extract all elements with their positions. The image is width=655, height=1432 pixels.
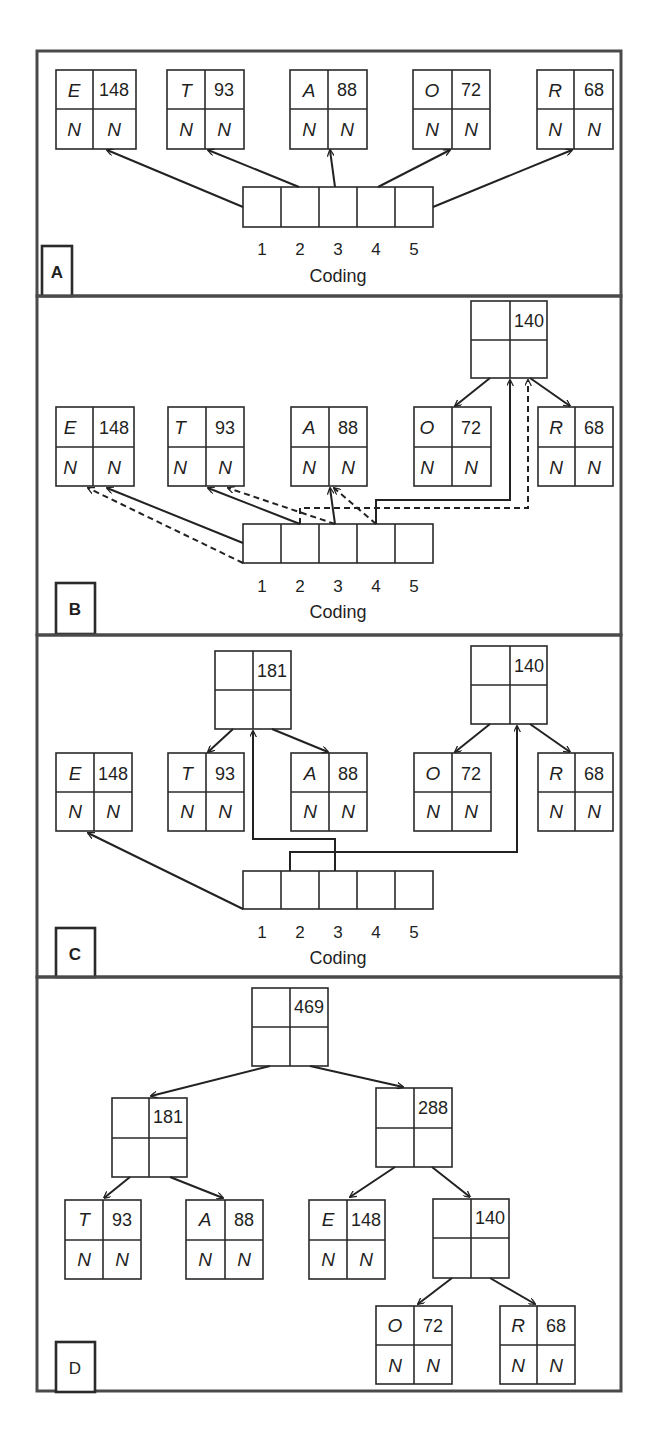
svg-text:T: T xyxy=(181,763,194,784)
svg-text:1: 1 xyxy=(257,923,266,942)
svg-text:N: N xyxy=(173,457,187,478)
leaf-node-t: T 93 N N xyxy=(167,70,244,149)
panel-d: 469 181 288 140 T 93 N N A xyxy=(37,977,621,1392)
leaf-node-r: R 68 N N xyxy=(500,1306,575,1384)
panel-label-d: D xyxy=(56,1342,95,1392)
svg-text:R: R xyxy=(511,1315,525,1336)
svg-text:3: 3 xyxy=(333,240,342,259)
right-pointer: N xyxy=(107,119,121,140)
coding-caption: Coding xyxy=(309,266,366,286)
svg-text:C: C xyxy=(69,945,81,964)
leaf-symbol: R xyxy=(548,80,562,101)
svg-text:O: O xyxy=(388,1315,403,1336)
coding-array xyxy=(243,524,433,563)
coding-index-labels: 1 2 3 4 5 xyxy=(257,923,418,942)
leaf-node-a: A 88 N N xyxy=(186,1200,263,1279)
svg-text:E: E xyxy=(322,1209,335,1230)
panel-c: 181 140 E 148 N N T 93 N N A 88 xyxy=(37,635,621,977)
leaf-weight: 148 xyxy=(99,80,129,100)
svg-text:148: 148 xyxy=(98,764,128,784)
leaf-symbol: A xyxy=(302,80,316,101)
svg-text:93: 93 xyxy=(112,1210,132,1230)
right-pointer: N xyxy=(217,119,231,140)
svg-text:N: N xyxy=(115,1249,129,1270)
left-pointer: N xyxy=(548,119,562,140)
svg-text:N: N xyxy=(464,457,478,478)
svg-text:2: 2 xyxy=(295,577,304,596)
svg-text:148: 148 xyxy=(351,1210,381,1230)
leaf-node-e: E 148 N N xyxy=(56,407,134,486)
svg-text:148: 148 xyxy=(99,418,129,438)
svg-text:88: 88 xyxy=(338,764,358,784)
coding-array xyxy=(243,187,433,227)
leaf-weight: 93 xyxy=(214,80,234,100)
internal-node-181: 181 xyxy=(112,1098,187,1177)
svg-text:72: 72 xyxy=(461,764,481,784)
coding-array xyxy=(243,871,433,909)
svg-text:288: 288 xyxy=(418,1098,448,1118)
svg-text:N: N xyxy=(359,1249,373,1270)
svg-text:O: O xyxy=(426,763,441,784)
svg-text:N: N xyxy=(77,1249,91,1270)
leaf-node-r: R 68 N N xyxy=(538,753,613,831)
svg-text:5: 5 xyxy=(409,923,418,942)
panel-b: 140 E 148 N N T 93 N N A 88 N N xyxy=(37,296,621,635)
leaf-node-t: T 93 N N xyxy=(168,753,244,831)
svg-text:4: 4 xyxy=(371,577,380,596)
internal-node-140: 140 xyxy=(471,301,547,378)
internal-node-288: 288 xyxy=(376,1088,452,1167)
leaf-node-r: R 68 N N xyxy=(537,70,613,149)
svg-text:N: N xyxy=(107,457,121,478)
coding-caption: Coding xyxy=(309,948,366,968)
svg-text:N: N xyxy=(388,1355,402,1376)
leaf-weight: 88 xyxy=(337,80,357,100)
coding-index-labels: 1 2 3 4 5 xyxy=(257,240,418,259)
svg-text:N: N xyxy=(180,801,194,822)
svg-text:N: N xyxy=(464,801,478,822)
right-pointer: N xyxy=(464,119,478,140)
svg-text:N: N xyxy=(218,457,232,478)
svg-text:N: N xyxy=(237,1249,251,1270)
leaf-node-r: R 68 N N xyxy=(538,407,613,486)
leaf-weight: 68 xyxy=(584,80,604,100)
svg-text:A: A xyxy=(302,417,316,438)
internal-node-181: 181 xyxy=(215,651,291,729)
leaf-node-a: A 88 N N xyxy=(291,753,367,831)
internal-node-140: 140 xyxy=(471,646,547,724)
svg-text:181: 181 xyxy=(153,1107,183,1127)
leaf-node-t: T 93 N N xyxy=(65,1200,141,1279)
left-pointer: N xyxy=(302,119,316,140)
huffman-diagram: E 148 N N T 93 N N A 88 N N O 72 N N xyxy=(0,0,655,1432)
left-pointer: N xyxy=(179,119,193,140)
svg-text:3: 3 xyxy=(333,923,342,942)
svg-text:A: A xyxy=(51,263,63,282)
left-pointer: N xyxy=(67,119,81,140)
svg-text:N: N xyxy=(426,1355,440,1376)
svg-text:R: R xyxy=(549,417,563,438)
svg-text:N: N xyxy=(420,457,434,478)
svg-text:72: 72 xyxy=(461,418,481,438)
svg-text:T: T xyxy=(78,1209,91,1230)
svg-text:N: N xyxy=(426,801,440,822)
svg-text:N: N xyxy=(218,801,232,822)
leaf-node-o: O 72 N N xyxy=(376,1306,452,1384)
svg-text:72: 72 xyxy=(423,1316,443,1336)
svg-text:4: 4 xyxy=(371,923,380,942)
svg-text:N: N xyxy=(106,801,120,822)
panel-label-a: A xyxy=(42,246,72,296)
svg-text:N: N xyxy=(341,457,355,478)
svg-text:A: A xyxy=(198,1209,212,1230)
svg-text:N: N xyxy=(341,801,355,822)
svg-text:N: N xyxy=(511,1355,525,1376)
panel-a: E 148 N N T 93 N N A 88 N N O 72 N N xyxy=(37,51,621,296)
leaf-node-a: A 88 N N xyxy=(290,70,367,149)
svg-text:1: 1 xyxy=(257,240,266,259)
right-pointer: N xyxy=(587,119,601,140)
svg-text:N: N xyxy=(321,1249,335,1270)
svg-text:2: 2 xyxy=(295,923,304,942)
svg-text:181: 181 xyxy=(257,661,287,681)
svg-text:T: T xyxy=(174,417,187,438)
leaf-weight: 72 xyxy=(461,80,481,100)
svg-text:93: 93 xyxy=(215,764,235,784)
svg-text:E: E xyxy=(64,417,77,438)
